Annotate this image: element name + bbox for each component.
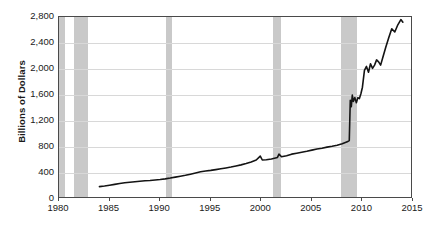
y-axis-tick-labels: 04008001,2001,6002,0002,4002,800 [0,16,54,198]
x-axis-tick-mark [159,198,160,201]
x-axis-tick-mark [58,198,59,201]
x-axis-tick-mark [311,198,312,201]
x-axis-tick-mark [109,198,110,201]
series-polyline [99,20,402,187]
x-axis-tick-mark [412,198,413,201]
plot-area [58,16,412,198]
x-axis-tick-mark [361,198,362,201]
x-axis-tick-label: 1995 [186,202,234,213]
y-axis-tick-label: 1,600 [6,88,54,99]
x-axis-tick-label: 2010 [337,202,385,213]
y-axis-tick-label: 2,800 [6,10,54,21]
x-axis-tick-label: 2005 [287,202,335,213]
x-axis-tick-label: 1990 [135,202,183,213]
x-axis-tick-label: 1985 [85,202,133,213]
x-axis-tick-labels: 19801985199019952000200520102015 [58,202,412,216]
y-axis-tick-label: 2,400 [6,36,54,47]
chart-figure: Billions of Dollars 04008001,2001,6002,0… [0,0,442,237]
y-axis-tick-label: 800 [6,140,54,151]
x-axis-tick-label: 1980 [34,202,82,213]
y-axis-tick-label: 400 [6,166,54,177]
x-axis-tick-label: 2000 [236,202,284,213]
x-axis-tick-label: 2015 [388,202,436,213]
data-series-line [59,17,412,198]
y-axis-tick-label: 2,000 [6,62,54,73]
x-axis-tick-mark [260,198,261,201]
y-axis-tick-label: 1,200 [6,114,54,125]
x-axis-tick-mark [210,198,211,201]
